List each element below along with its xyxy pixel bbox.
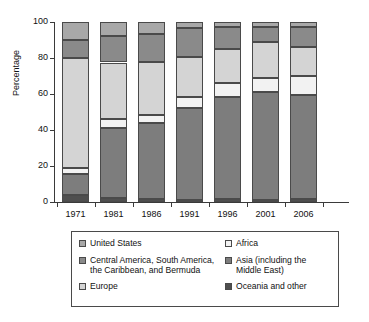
y-tick-label-20: 20 — [22, 160, 48, 170]
bar-segment — [214, 49, 241, 83]
bar-segment — [252, 200, 279, 202]
bar-segment — [138, 34, 165, 62]
bar-1996 — [214, 22, 241, 202]
bar-segment — [214, 83, 241, 97]
x-tick-label-1986: 1986 — [132, 209, 172, 219]
bar-segment — [62, 58, 89, 168]
legend-label: Africa — [236, 238, 258, 249]
legend-column-left: United StatesCentral America, South Amer… — [79, 238, 221, 297]
bar-segment — [176, 108, 203, 200]
x-tick-mark-end — [323, 203, 324, 207]
legend-label: United States — [90, 238, 142, 249]
x-tick-mark-1991 — [171, 203, 172, 207]
legend-label: Central America, South America,the Carib… — [90, 255, 214, 276]
bar-segment — [176, 28, 203, 57]
bar-segment — [214, 97, 241, 200]
bar-segment — [100, 119, 127, 128]
x-tick-label-2001: 2001 — [246, 209, 286, 219]
bar-segment — [214, 199, 241, 202]
bar-segment — [290, 95, 317, 199]
x-tick-label-1996: 1996 — [208, 209, 248, 219]
bar-segment — [252, 42, 279, 78]
bar-segment — [138, 22, 165, 34]
x-tick-mark-1996 — [209, 203, 210, 207]
bar-segment — [176, 97, 203, 109]
bar-segment — [214, 27, 241, 49]
bar-1986 — [138, 22, 165, 202]
bar-segment — [290, 199, 317, 202]
bar-segment — [138, 199, 165, 202]
legend-swatch-icon — [225, 257, 232, 264]
y-tick-label-40: 40 — [22, 124, 48, 134]
legend-item: Central America, South America,the Carib… — [79, 255, 221, 276]
bar-1991 — [176, 22, 203, 202]
bar-segment — [252, 92, 279, 200]
bar-segment — [290, 76, 317, 95]
legend-item: United States — [79, 238, 221, 249]
legend-label: Oceania and other — [236, 281, 307, 292]
bar-segment — [100, 63, 127, 120]
bar-segment — [100, 128, 127, 198]
bar-segment — [290, 27, 317, 47]
bar-segment — [62, 40, 89, 58]
legend-item: Oceania and other — [225, 281, 335, 292]
bar-segment — [62, 22, 89, 40]
x-tick-mark-1981 — [95, 203, 96, 207]
x-tick-mark-2001 — [247, 203, 248, 207]
y-tick-label-60: 60 — [22, 88, 48, 98]
bar-segment — [176, 200, 203, 202]
chart-container: Percentage 020406080100 1971198119861991… — [0, 0, 369, 322]
bar-segment — [252, 27, 279, 42]
x-tick-label-1991: 1991 — [170, 209, 210, 219]
legend-label-line2: Middle East) — [236, 265, 306, 276]
x-tick-mark-2006 — [285, 203, 286, 207]
bar-segment — [290, 47, 317, 76]
y-axis-line — [54, 22, 55, 203]
bar-segment — [138, 115, 165, 123]
bar-segment — [100, 198, 127, 202]
bar-segment — [252, 78, 279, 92]
y-axis-title: Percentage — [11, 28, 21, 118]
x-tick-label-2006: 2006 — [284, 209, 324, 219]
bar-segment — [214, 22, 241, 27]
legend-swatch-icon — [225, 283, 232, 290]
y-tick-label-80: 80 — [22, 52, 48, 62]
bar-segment — [290, 22, 317, 27]
y-tick-label-0: 0 — [22, 196, 48, 206]
chart-legend: United StatesCentral America, South Amer… — [71, 231, 339, 307]
legend-label-line2: the Caribbean, and Bermuda — [90, 265, 214, 276]
bar-segment — [62, 195, 89, 202]
legend-label: Europe — [90, 281, 118, 292]
bar-segment — [62, 174, 89, 195]
x-tick-label-1971: 1971 — [56, 209, 96, 219]
bar-2006 — [290, 22, 317, 202]
legend-item: Africa — [225, 238, 335, 249]
bar-2001 — [252, 22, 279, 202]
bar-segment — [176, 57, 203, 97]
bar-1971 — [62, 22, 89, 202]
legend-item: Europe — [79, 281, 221, 292]
legend-label: Asia (including theMiddle East) — [236, 255, 306, 276]
x-tick-mark-1971 — [57, 203, 58, 207]
bar-1981 — [100, 22, 127, 202]
bar-segment — [176, 22, 203, 28]
legend-swatch-icon — [225, 240, 232, 247]
legend-swatch-icon — [79, 240, 86, 247]
bar-segment — [138, 123, 165, 200]
x-tick-mark-1986 — [133, 203, 134, 207]
bar-segment — [62, 168, 89, 174]
bar-segment — [252, 22, 279, 27]
legend-column-right: AfricaAsia (including theMiddle East)Oce… — [225, 238, 335, 297]
bar-segment — [100, 22, 127, 36]
legend-item: Asia (including theMiddle East) — [225, 255, 335, 276]
x-tick-label-1981: 1981 — [94, 209, 134, 219]
plot-area: Percentage 020406080100 1971198119861991… — [0, 0, 369, 225]
bar-segment — [138, 62, 165, 115]
legend-swatch-icon — [79, 257, 86, 264]
legend-swatch-icon — [79, 283, 86, 290]
bar-segment — [100, 36, 127, 62]
y-tick-label-100: 100 — [22, 16, 48, 26]
